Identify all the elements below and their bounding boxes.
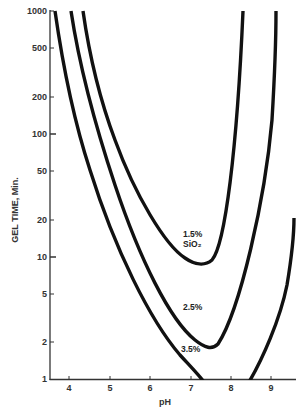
series-label-1-5: 1.5%: [183, 229, 203, 239]
curve-2-5-percent: [71, 11, 276, 347]
curve-1-5-percent: [83, 11, 243, 264]
x-tick-5: 5: [107, 383, 112, 393]
x-tick-6: 6: [147, 383, 152, 393]
series-label-sio2: SiO₂: [183, 239, 202, 249]
curve-3-5-percent-right: [249, 218, 294, 382]
y-tick-50: 50: [37, 166, 47, 176]
x-tick-7: 7: [188, 383, 193, 393]
x-tick-9: 9: [268, 383, 273, 393]
y-tick-5: 5: [42, 289, 47, 299]
y-tick-10: 10: [37, 252, 47, 262]
y-tick-500: 500: [32, 43, 47, 53]
x-tick-labels: 4 5 6 7 8 9: [66, 383, 273, 393]
x-axis-title: pH: [159, 397, 171, 407]
y-tick-100: 100: [32, 129, 47, 139]
series-label-3-5: 3.5%: [181, 344, 201, 354]
y-tick-labels: 1000 500 200 100 50 20 10 5 2 1: [27, 6, 47, 384]
y-tick-200: 200: [32, 92, 47, 102]
gel-time-chart: 1000 500 200 100 50 20 10 5 2 1 4 5 6 7 …: [0, 0, 299, 411]
y-tick-2: 2: [42, 337, 47, 347]
x-tick-4: 4: [66, 383, 71, 393]
y-axis-title: GEL TIME, Min.: [10, 177, 20, 242]
y-tick-1000: 1000: [27, 6, 47, 16]
y-tick-20: 20: [37, 215, 47, 225]
y-ticks: [50, 11, 56, 342]
x-tick-8: 8: [228, 383, 233, 393]
series-label-2-5: 2.5%: [183, 302, 203, 312]
y-tick-1: 1: [42, 374, 47, 384]
